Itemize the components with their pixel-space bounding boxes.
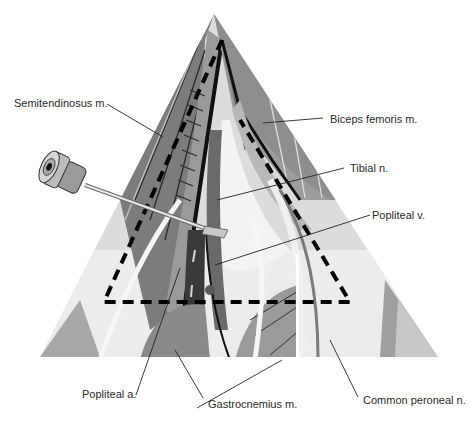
label-tibial-nerve: Tibial n.	[350, 162, 388, 174]
label-popliteal-vein: Popliteal v.	[372, 209, 425, 221]
label-popliteal-artery: Popliteal a.	[82, 388, 136, 400]
label-gastrocnemius: Gastrocnemius m.	[208, 398, 297, 410]
label-semitendinosus: Semitendinosus m.	[14, 97, 108, 109]
label-biceps-femoris: Biceps femoris m.	[330, 113, 417, 125]
label-common-peroneal: Common peroneal n.	[363, 394, 466, 406]
popliteal-region	[40, 14, 440, 360]
